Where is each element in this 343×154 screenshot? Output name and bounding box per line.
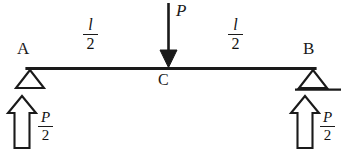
pin-support-A-triangle (16, 70, 44, 88)
left-reaction-label: P 2 (38, 110, 53, 143)
point-load-arrow-P (160, 3, 177, 68)
dimension-left-denominator: 2 (84, 35, 98, 52)
right-reaction-numerator: P (320, 110, 335, 126)
roller-support-B-triangle (299, 70, 327, 88)
left-reaction-arrow (8, 96, 36, 148)
support-label-a: A (17, 40, 29, 57)
dimension-right-half-span: l 2 (228, 17, 243, 52)
right-reaction-denominator: 2 (321, 127, 335, 143)
right-reaction-label: P 2 (320, 110, 335, 143)
left-reaction-numerator: P (38, 110, 53, 126)
dimension-right-denominator: 2 (229, 35, 243, 52)
point-load-label-p: P (176, 2, 186, 19)
dimension-left-numerator: l (85, 17, 95, 34)
midspan-label-c: C (158, 72, 169, 88)
left-reaction-denominator: 2 (39, 127, 53, 143)
point-load-arrowhead (160, 50, 177, 68)
dimension-left-half-span: l 2 (83, 17, 98, 52)
dimension-right-numerator: l (230, 17, 240, 34)
support-label-b: B (303, 40, 314, 57)
beam-free-body-diagram: A B C P l 2 l 2 P 2 P 2 (0, 0, 343, 154)
right-reaction-arrow (291, 96, 319, 148)
